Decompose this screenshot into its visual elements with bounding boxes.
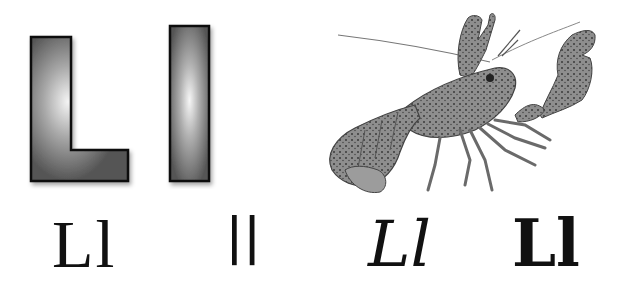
slab-serif-letter-pair: Ll <box>512 210 580 276</box>
lobster-illustration <box>320 0 629 200</box>
serif-letter-pair: Ll <box>52 210 116 278</box>
block-uppercase-l <box>26 32 136 190</box>
cursive-letter-pair: Ll <box>368 212 431 276</box>
sans-serif-letter-pair: ll <box>227 210 263 276</box>
block-lowercase-l <box>165 21 217 189</box>
